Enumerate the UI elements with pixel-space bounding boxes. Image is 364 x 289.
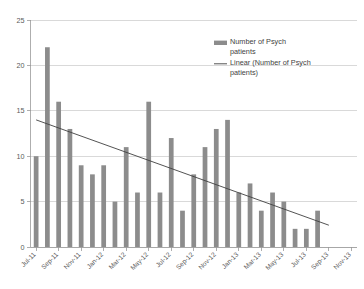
bar: [315, 211, 320, 247]
bar: [124, 147, 129, 247]
chart-legend: Number of PsychpatientsLinear (Number of…: [214, 37, 311, 77]
x-axis-tick-label: Nov-13: [332, 251, 352, 271]
bar: [180, 211, 185, 247]
bar: [169, 138, 174, 247]
bar: [236, 193, 241, 247]
bar: [34, 156, 39, 247]
bar: [304, 229, 309, 247]
bar: [101, 165, 106, 247]
bar: [158, 193, 163, 247]
x-axis-tick-label: Nov-11: [62, 251, 82, 271]
legend-bar-swatch-icon: [214, 41, 227, 45]
x-axis-tick-label: Mar-13: [242, 251, 262, 271]
bar: [191, 174, 196, 247]
x-axis-tick-label: Sep-12: [174, 251, 195, 272]
x-axis-tick-label: Mar-12: [107, 251, 127, 271]
x-axis-tick-label: Jul-13: [289, 251, 307, 269]
x-axis-tick-label: May-13: [264, 251, 285, 272]
bar: [45, 47, 50, 247]
legend-item-label: Linear (Number of Psych: [230, 58, 311, 67]
bar: [56, 102, 61, 247]
bar: [79, 165, 84, 247]
bar: [248, 183, 253, 247]
x-axis-tick-labels: Jul-11Sep-11Nov-11Jan-12Mar-12May-12Jul-…: [20, 251, 353, 272]
bar-series: [34, 47, 320, 247]
bar: [146, 102, 151, 247]
y-axis-tick-label: 20: [17, 61, 25, 70]
bar: [135, 193, 140, 247]
legend-item-label: Number of Psych: [230, 37, 286, 46]
bar: [293, 229, 298, 247]
x-axis-tick-label: Nov-12: [197, 251, 217, 271]
y-axis-tick-label: 25: [17, 16, 25, 25]
x-axis-tick-label: Jul-12: [154, 251, 172, 269]
x-axis-tick-label: Sep-13: [310, 251, 331, 272]
y-axis-tick-label: 0: [21, 243, 25, 252]
legend-item-label: patients: [230, 47, 256, 56]
bar: [259, 211, 264, 247]
y-axis-tick-label: 15: [17, 106, 25, 115]
x-axis-tick-label: Jul-11: [20, 251, 38, 269]
x-axis: [31, 247, 358, 251]
y-axis: [27, 20, 31, 247]
x-axis-tick-label: Jan-12: [85, 251, 104, 270]
y-axis-tick-label: 10: [17, 152, 25, 161]
y-axis-tick-labels: 0510152025: [17, 16, 25, 252]
bar: [90, 174, 95, 247]
bar: [113, 202, 118, 247]
bar: [203, 147, 208, 247]
x-axis-tick-label: Jan-13: [220, 251, 239, 270]
bar: [214, 129, 219, 247]
chart-container: 0510152025 Jul-11Sep-11Nov-11Jan-12Mar-1…: [0, 0, 364, 289]
bar-chart: 0510152025 Jul-11Sep-11Nov-11Jan-12Mar-1…: [0, 0, 364, 289]
bar: [270, 193, 275, 247]
y-axis-tick-label: 5: [21, 197, 25, 206]
bar: [225, 120, 230, 247]
x-axis-tick-label: May-12: [129, 251, 150, 272]
legend-item-label: patients): [230, 68, 258, 77]
x-axis-tick-label: Sep-11: [40, 251, 61, 272]
bar: [68, 129, 73, 247]
